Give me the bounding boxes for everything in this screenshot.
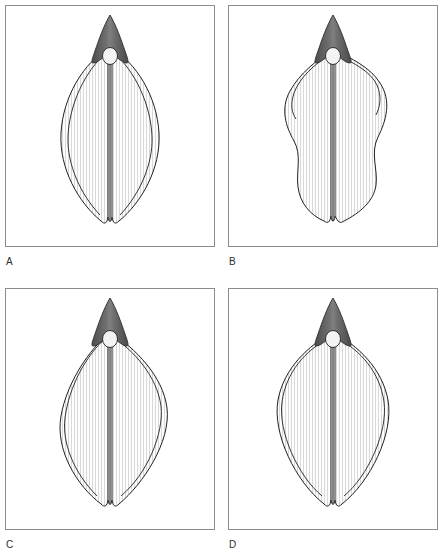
panel-c [5,288,215,530]
panel-d-body-right [333,332,389,506]
panel-c-body-right [110,332,167,506]
panel-c-drawing [5,288,215,530]
panel-d [228,288,438,530]
panel-d-drawing [228,288,438,530]
panel-a [5,5,215,247]
panel-c-basal-ovule [103,331,118,348]
panel-b-basal-ovule [326,48,341,65]
panel-b [228,5,438,247]
panel-label-c: C [6,539,13,551]
panel-a-drawing [5,5,215,247]
panel-d-basal-ovule [326,331,341,348]
panel-c-body-left [60,332,110,506]
panel-d-body-left [277,332,333,506]
panel-b-body-right [333,49,387,222]
panel-a-basal-ovule [103,48,118,65]
panel-b-body-left [285,49,333,222]
panel-b-drawing [228,5,438,247]
panel-label-b: B [229,256,236,268]
panel-label-a: A [6,256,13,268]
panel-label-d: D [229,539,236,551]
figure-root: A [0,0,443,558]
